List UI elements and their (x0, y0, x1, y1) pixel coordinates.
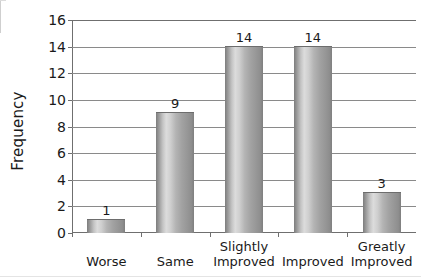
bar-value-label: 9 (171, 96, 179, 111)
bar-chart: Frequency 1914143 WorseSameSlightlyImpro… (0, 0, 421, 277)
y-tick-label: 14 (38, 39, 66, 55)
y-tick-label: 2 (38, 198, 66, 214)
x-tick-mark (278, 233, 279, 237)
frame-edge-left (0, 0, 1, 33)
bar-value-label: 1 (102, 203, 110, 218)
bar-value-label: 14 (236, 30, 253, 45)
x-axis-category-label: SlightlyImproved (210, 239, 279, 269)
bar-group[interactable]: 3 (363, 20, 401, 233)
y-axis-title: Frequency (9, 61, 27, 201)
x-axis-category-label: GreatlyImproved (347, 239, 416, 269)
frame-edge-top (0, 0, 6, 1)
bar[interactable] (294, 46, 332, 233)
bar-group[interactable]: 9 (156, 20, 194, 233)
y-tick-label: 8 (38, 119, 66, 135)
x-tick-mark (72, 233, 73, 237)
x-tick-mark (141, 233, 142, 237)
x-tick-mark (210, 233, 211, 237)
y-tick-label: 12 (38, 65, 66, 81)
bar[interactable] (156, 112, 194, 233)
bar-group[interactable]: 1 (87, 20, 125, 233)
x-axis-category-label: Worse (72, 254, 141, 269)
bar[interactable] (225, 46, 263, 233)
y-tick-label: 6 (38, 145, 66, 161)
x-axis-category-label: Improved (278, 254, 347, 269)
bar[interactable] (363, 192, 401, 233)
y-tick-label: 16 (38, 12, 66, 28)
bar-value-label: 14 (305, 30, 322, 45)
y-tick-label: 10 (38, 92, 66, 108)
x-axis-category-label: Same (141, 254, 210, 269)
bar-value-label: 3 (377, 176, 385, 191)
y-tick-label: 0 (38, 225, 66, 241)
bar-group[interactable]: 14 (225, 20, 263, 233)
x-tick-mark (347, 233, 348, 237)
bar[interactable] (87, 219, 125, 233)
y-tick-label: 4 (38, 172, 66, 188)
bar-group[interactable]: 14 (294, 20, 332, 233)
plot-area: 1914143 (72, 20, 416, 233)
x-axis-labels: WorseSameSlightlyImprovedImprovedGreatly… (72, 239, 416, 277)
bars-layer: 1914143 (72, 20, 416, 233)
